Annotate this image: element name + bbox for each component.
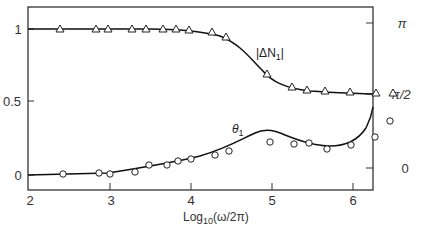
x-tick-5: 5 — [268, 193, 275, 208]
y-tick-1: 1 — [14, 22, 21, 37]
y-right-tick-0: 0 — [401, 161, 408, 176]
delta-n1-label: |ΔN1| — [256, 46, 284, 62]
y-tick-0: 0 — [14, 168, 21, 183]
theta1-label: θ1 — [232, 122, 244, 138]
x-tick-2: 2 — [26, 193, 33, 208]
x-axis-label: Log10(ω/2π) — [183, 210, 249, 226]
y-right-tick-pi: π — [398, 16, 407, 31]
chart: 1 0.5 0 π π/2 0 2 3 4 5 6 Log10(ω/2π) — [0, 0, 423, 226]
x-tick-3: 3 — [107, 193, 114, 208]
x-tick-4: 4 — [187, 193, 194, 208]
x-tick-6: 6 — [349, 193, 356, 208]
delta-n1-markers — [56, 25, 397, 96]
plot-frame — [28, 7, 373, 190]
y-tick-0-5: 0.5 — [3, 94, 21, 109]
theta1-curve — [28, 107, 373, 175]
theta1-markers — [60, 118, 393, 177]
y-axis-left: 1 0.5 0 — [3, 22, 34, 183]
delta-n1-curve — [28, 29, 373, 94]
